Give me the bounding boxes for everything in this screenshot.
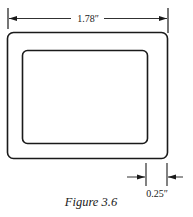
left-arrowhead-icon — [9, 16, 17, 21]
frame-thickness-dimension: 0.25″ — [127, 163, 183, 199]
figure-diagram: 1.78″ 0.25″ Figure 3.6 — [0, 0, 193, 217]
overall-width-dimension: 1.78″ — [8, 8, 168, 33]
frame-thickness-label: 0.25″ — [146, 188, 168, 199]
overall-width-label: 1.78″ — [77, 13, 99, 24]
right-arrowhead-icon — [159, 16, 167, 21]
inner-frame-outline — [23, 51, 148, 144]
inward-arrowhead-right-icon — [168, 175, 176, 180]
inward-arrowhead-left-icon — [137, 175, 145, 180]
figure-caption: Figure 3.6 — [64, 195, 118, 209]
